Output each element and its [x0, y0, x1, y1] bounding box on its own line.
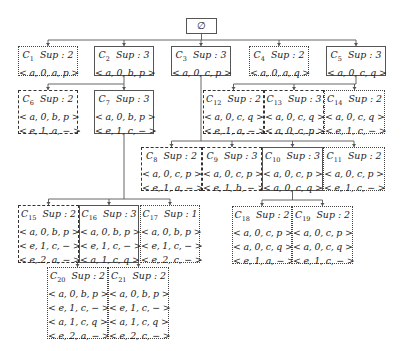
node-index: 11 [334, 156, 342, 164]
node-c4: C4 Sup : 2 < a, 0, a, q > [249, 46, 309, 76]
node-name: C [23, 49, 30, 60]
sequence-tuple: < e, 1, a, − > [142, 181, 201, 195]
node-index: 15 [28, 214, 36, 222]
support-label: Sup : 2 [348, 150, 382, 161]
node-name: C [99, 93, 106, 104]
node-c16: C16 Sup : 3 < a, 0, b, p >< e, 1, c, − >… [79, 205, 139, 263]
node-index: 21 [118, 276, 126, 284]
sequence-tuple: < a, 1, c, q > [48, 315, 107, 329]
node-header: C13 Sup : 3 [265, 92, 323, 110]
node-header: C4 Sup : 2 [250, 48, 308, 66]
node-index: 20 [57, 276, 65, 284]
sequence-tuple: < e, 1, b, − > [203, 181, 261, 195]
sequence-tuple: < e, 1, c, − > [80, 239, 138, 253]
node-index: 4 [261, 55, 265, 63]
support-label: Sup : 3 [224, 150, 258, 161]
sequence-tuple: < a, 0, c, p > [172, 66, 230, 80]
sequence-tuple: < a, 0, c, p > [293, 226, 352, 240]
node-c14: C14 Sup : 2 < a, 0, c, q >< e, 1, c, − > [324, 90, 385, 134]
node-name: C [82, 208, 89, 219]
node-c20: C20 Sup : 2 < a, 0, b, p >< e, 1, c, − >… [47, 267, 108, 339]
support-label: Sup : 2 [271, 49, 305, 60]
node-c21: C21 Sup : 2 < a, 0, b, p >< e, 1, c, − >… [108, 267, 169, 339]
node-header: C6 Sup : 2 [19, 92, 77, 110]
support-label: Sup : 2 [348, 93, 382, 104]
sequence-tuple: < e, 1, a, − > [233, 254, 291, 268]
node-name: C [331, 49, 338, 60]
node-header: C1 Sup : 2 [19, 48, 77, 66]
sequence-tuple: < a, 0, c, q > [204, 110, 263, 124]
node-c7: C7 Sup : 3 < a, 0, b, p >< e, 1, c, − > [94, 90, 154, 134]
sequence-tuple: < a, 0, c, p > [142, 167, 201, 181]
node-header: C14 Sup : 2 [325, 92, 384, 110]
sequence-tuple: < a, 0, a, q > [250, 66, 308, 80]
node-index: 18 [242, 215, 250, 223]
support-label: Sup : 3 [288, 93, 322, 104]
node-index: 6 [30, 99, 34, 107]
node-index: 7 [106, 99, 110, 107]
sequence-tuple: < a, 0, c, q > [293, 240, 352, 254]
sequence-tuple: < a, 0, c, q > [265, 110, 323, 124]
node-header: C15 Sup : 2 [19, 207, 78, 225]
support-label: Sup : 3 [103, 208, 137, 219]
node-name: C [327, 150, 334, 161]
node-header: C21 Sup : 2 [109, 269, 168, 287]
node-header: C3 Sup : 3 [172, 48, 230, 66]
support-label: Sup : 2 [71, 270, 105, 281]
sequence-tuple: < e, 1, c, − > [109, 301, 168, 315]
node-index: 10 [272, 156, 280, 164]
node-name: C [143, 208, 150, 219]
sequence-tuple: < e, 1, c, − > [293, 254, 352, 268]
node-name: C [235, 209, 242, 220]
sequence-tuple: < a, 0, c, q > [263, 181, 322, 195]
node-index: 19 [302, 215, 310, 223]
node-header: C8 Sup : 2 [142, 149, 201, 167]
node-header: C18 Sup : 2 [233, 208, 291, 226]
node-index: 13 [274, 99, 282, 107]
support-label: Sup : 3 [116, 49, 150, 60]
support-label: Sup : 3 [348, 49, 382, 60]
sequence-tuple: < e, 1, c, − > [48, 301, 107, 315]
node-header: C12 Sup : 2 [204, 92, 263, 110]
node-header: C5 Sup : 3 [327, 48, 385, 66]
support-label: Sup : 2 [227, 93, 261, 104]
sequence-tuple: < a, 0, b, p > [19, 110, 77, 124]
node-index: 12 [213, 99, 221, 107]
support-label: Sup : 3 [193, 49, 227, 60]
node-index: 16 [89, 214, 97, 222]
support-label: Sup : 3 [286, 150, 320, 161]
sequence-tuple: < a, 0, a, p > [19, 66, 77, 80]
sequence-tuple: < e, 1, a, − > [19, 124, 77, 138]
node-header: C9 Sup : 3 [203, 149, 261, 167]
node-name: C [267, 93, 274, 104]
sequence-tuple: < a, 1, c, q > [109, 315, 168, 329]
root-node: ∅ [186, 18, 217, 34]
node-c5: C5 Sup : 3 < a, 0, c, q > [326, 46, 386, 76]
support-label: Sup : 2 [40, 49, 74, 60]
sequence-tuple: < e, 2, a, − > [19, 253, 78, 267]
sequence-tuple: < a, 0, b, p > [48, 287, 107, 301]
node-c17: C17 Sup : 1 < a, 0, b, p >< e, 1, c, − >… [140, 205, 200, 263]
sequence-tuple: < e, 1, c, − > [19, 239, 78, 253]
node-c3: C3 Sup : 3 < a, 0, c, p > [171, 46, 231, 76]
sequence-tuple: < a, 0, c, p > [324, 167, 384, 181]
support-label: Sup : 2 [42, 208, 76, 219]
node-header: C7 Sup : 3 [95, 92, 153, 110]
node-index: 9 [214, 156, 218, 164]
sequence-tuple: < e, 2, c, − > [109, 329, 168, 343]
sequence-tuple: < e, 1, c, − > [141, 239, 199, 253]
node-c8: C8 Sup : 2 < a, 0, c, p >< e, 1, a, − > [141, 147, 202, 191]
node-name: C [23, 93, 30, 104]
node-c13: C13 Sup : 3 < a, 0, c, q >< a, 0, c, p > [264, 90, 324, 134]
node-header: C11 Sup : 2 [324, 149, 384, 167]
support-label: Sup : 2 [316, 209, 350, 220]
node-c1: C1 Sup : 2 < a, 0, a, p > [18, 46, 78, 76]
sequence-tuple: < a, 0, b, p > [19, 225, 78, 239]
sequence-tuple: < e, 1, a, − > [204, 124, 263, 138]
support-label: Sup : 2 [256, 209, 290, 220]
sequence-tuple: < a, 0, c, q > [233, 240, 291, 254]
sequence-tuple: < a, 0, b, p > [141, 225, 199, 239]
node-c15: C15 Sup : 2 < a, 0, b, p >< e, 1, c, − >… [18, 205, 79, 263]
sequence-tuple: < a, 0, b, p > [95, 66, 153, 80]
node-index: 17 [150, 214, 158, 222]
